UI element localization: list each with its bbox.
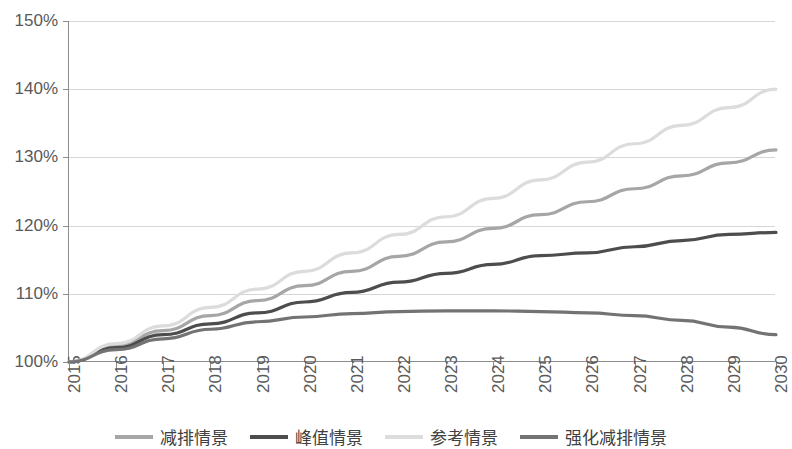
- chart-legend: 减排情景峰值情景参考情景强化减排情景: [0, 424, 782, 449]
- y-tick-label: 150%: [0, 11, 58, 31]
- y-tick-label: 110%: [0, 284, 58, 304]
- legend-item[interactable]: 参考情景: [385, 424, 498, 449]
- y-tick-label: 130%: [0, 147, 58, 167]
- series-layer: [69, 21, 776, 362]
- legend-swatch-icon: [250, 435, 288, 439]
- legend-label: 峰值情景: [295, 424, 363, 449]
- y-tick-label: 100%: [0, 352, 58, 372]
- legend-label: 强化减排情景: [565, 424, 667, 449]
- series-line: [69, 150, 776, 362]
- legend-swatch-icon: [115, 435, 153, 439]
- legend-swatch-icon: [385, 435, 423, 439]
- y-tick-label: 140%: [0, 79, 58, 99]
- legend-label: 减排情景: [160, 424, 228, 449]
- legend-swatch-icon: [520, 435, 558, 439]
- legend-item[interactable]: 减排情景: [115, 424, 228, 449]
- series-line: [69, 232, 776, 362]
- plot-area: 100%110%120%130%140%150% 201520162017201…: [68, 21, 775, 362]
- y-tick-label: 120%: [0, 216, 58, 236]
- series-line: [69, 311, 776, 362]
- legend-item[interactable]: 强化减排情景: [520, 424, 667, 449]
- legend-label: 参考情景: [430, 424, 498, 449]
- legend-item[interactable]: 峰值情景: [250, 424, 363, 449]
